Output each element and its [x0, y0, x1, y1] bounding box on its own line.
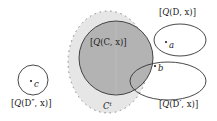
point-c: [30, 80, 32, 82]
diagram-canvas: a b c [Q(C, x)] [Q(D, x)] [Q(D′, x)] [Q(…: [0, 0, 217, 121]
point-b-label: b: [158, 63, 163, 73]
region-q-d: [154, 24, 206, 56]
point-c-label: c: [34, 79, 39, 89]
point-b: [154, 65, 156, 67]
label-q-d-double-prime: [Q(D″, x)]: [11, 98, 51, 108]
label-q-d: [Q(D, x)]: [159, 7, 196, 17]
point-a-label: a: [169, 40, 174, 50]
label-q-c: [Q(C, x)]: [90, 37, 127, 47]
region-q-d-double-prime: [18, 65, 48, 95]
label-q-d-prime: [Q(D′, x)]: [159, 99, 198, 109]
point-a: [165, 41, 167, 43]
